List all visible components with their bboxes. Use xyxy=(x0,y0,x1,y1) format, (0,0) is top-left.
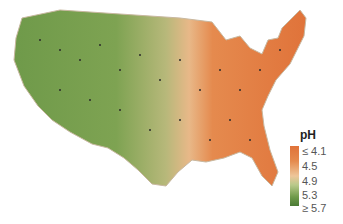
legend-label: 5.3 xyxy=(302,189,317,201)
ph-legend: pH ≤ 4.1 4.5 4.9 5.3 ≥ 5.7 xyxy=(290,128,343,208)
legend-title: pH xyxy=(300,128,316,142)
legend-label: ≤ 4.1 xyxy=(302,145,326,157)
legend-label: 4.5 xyxy=(302,160,317,172)
us-outline xyxy=(14,10,306,186)
legend-label: 4.9 xyxy=(302,175,317,187)
legend-label: ≥ 5.7 xyxy=(302,202,326,214)
legend-color-bar xyxy=(290,146,299,206)
